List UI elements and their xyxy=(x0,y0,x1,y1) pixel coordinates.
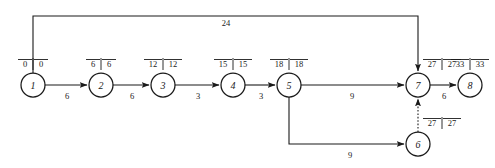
node-6-label: 6 xyxy=(416,139,421,150)
node-8-label: 8 xyxy=(468,80,473,91)
edge-weight-5-7: 9 xyxy=(350,91,354,101)
node-3[interactable]: 3 xyxy=(151,73,175,97)
node-7[interactable]: 7 xyxy=(406,73,430,97)
node-1-label: 1 xyxy=(31,80,36,91)
node-4[interactable]: 4 xyxy=(221,73,245,97)
node-6[interactable]: 6 xyxy=(406,132,430,156)
node-2-label: 2 xyxy=(99,80,104,91)
latest-time-node-5: 18 xyxy=(295,59,304,69)
node-8[interactable]: 8 xyxy=(458,73,482,97)
earliest-time-node-7: 27 xyxy=(428,59,437,69)
latest-time-node-3: 12 xyxy=(169,59,178,69)
node-5[interactable]: 5 xyxy=(277,73,301,97)
edge-weight-1-2: 6 xyxy=(65,91,69,101)
edge-weight-1-7: 24 xyxy=(222,18,231,28)
latest-time-node-4: 15 xyxy=(239,59,248,69)
edge-weight-7-8: 6 xyxy=(442,91,446,101)
edge-weight-2-3: 6 xyxy=(130,91,134,101)
earliest-time-node-5: 18 xyxy=(275,59,284,69)
earliest-time-node-4: 15 xyxy=(219,59,228,69)
time-label-node-3: 12 12 xyxy=(144,58,182,70)
edge-weights-layer: 6 6 3 3 9 6 24 9 xyxy=(65,18,446,160)
network-diagram-canvas: 6 6 3 3 9 6 24 9 1 2 3 4 xyxy=(0,0,495,168)
edge-weight-4-5: 3 xyxy=(259,91,263,101)
latest-time-node-6: 27 xyxy=(448,118,457,128)
edge-weight-5-6: 9 xyxy=(348,150,352,160)
network-graph-svg: 6 6 3 3 9 6 24 9 1 2 3 4 xyxy=(0,0,495,168)
earliest-time-node-1: 0 xyxy=(23,59,27,69)
latest-time-node-2: 6 xyxy=(107,59,111,69)
earliest-time-node-8: 33 xyxy=(456,59,465,69)
time-label-node-2: 6 6 xyxy=(86,58,116,70)
earliest-time-node-6: 27 xyxy=(428,118,437,128)
node-3-label: 3 xyxy=(160,80,166,91)
edge-5-to-6 xyxy=(289,97,404,144)
node-4-label: 4 xyxy=(231,80,236,91)
time-label-node-1: 0 0 xyxy=(18,58,48,70)
node-2[interactable]: 2 xyxy=(89,73,113,97)
node-1[interactable]: 1 xyxy=(21,73,45,97)
earliest-time-node-3: 12 xyxy=(149,59,158,69)
latest-time-node-1: 0 xyxy=(39,59,43,69)
time-label-node-6: 27 27 xyxy=(423,117,461,129)
node-5-label: 5 xyxy=(287,80,292,91)
latest-time-node-8: 33 xyxy=(476,59,485,69)
earliest-time-node-2: 6 xyxy=(91,59,95,69)
time-label-node-8: 33 33 xyxy=(451,58,489,70)
time-label-node-5: 18 18 xyxy=(270,58,308,70)
time-label-node-4: 15 15 xyxy=(214,58,252,70)
edge-weight-3-4: 3 xyxy=(196,91,200,101)
